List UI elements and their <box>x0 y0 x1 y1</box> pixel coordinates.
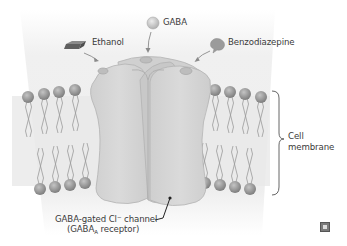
cell-membrane-brace <box>272 91 284 195</box>
gaba-label: GABA <box>163 18 187 28</box>
ethanol-label: Ethanol <box>92 38 124 48</box>
cell-membrane-label-line2: membrane <box>288 143 334 153</box>
gaba-molecule-icon <box>147 17 159 29</box>
benzodiazepine-binding-site <box>180 68 192 75</box>
gaba-binding-site <box>140 57 152 63</box>
receptor-label-post: receptor) <box>98 224 139 234</box>
ethanol-binding-site <box>98 68 108 74</box>
channel-label-pre: GABA-gated Cl <box>55 214 117 224</box>
receptor-label-pre: (GABA <box>67 224 94 234</box>
receptor-label: (GABAA receptor) <box>67 225 139 235</box>
gaba-receptor-protein <box>91 56 211 205</box>
cell-membrane-label-line1: Cell <box>288 132 304 142</box>
publisher-logo-icon <box>320 222 330 232</box>
channel-label-post: channel <box>121 214 157 224</box>
gaba-receptor-diagram <box>0 0 347 246</box>
benzodiazepine-label: Benzodiazepine <box>228 38 294 48</box>
